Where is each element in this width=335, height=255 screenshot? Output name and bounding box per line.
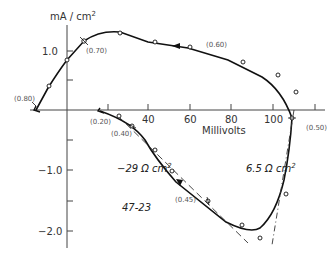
x-ticks xyxy=(108,104,315,110)
annotation-0-20: (0.20) xyxy=(90,118,111,126)
x-tick-label-100: 100 xyxy=(264,114,283,125)
y-tick-label-m1: −1.0 xyxy=(38,165,62,176)
data-points xyxy=(47,31,298,240)
annotation-0-50: (0.50) xyxy=(306,124,327,132)
y-tick-label-1: 1.0 xyxy=(42,46,58,57)
annotation-0-70: (0.70) xyxy=(86,47,107,55)
neg-resistance-label: −29 Ω cm2 xyxy=(117,162,172,174)
x-tick-label-80: 80 xyxy=(225,114,238,125)
pos-resistance-label: 6.5 Ω cm2 xyxy=(246,162,296,174)
x-tick-label-60: 60 xyxy=(184,114,197,125)
iv-loop-chart: mA / cm2 1.0 −1.0 −2.0 40 60 80 100 Mill… xyxy=(0,0,335,255)
y-axis-label: mA / cm2 xyxy=(50,10,96,22)
x-tick-label-40: 40 xyxy=(142,114,155,125)
chart-container: mA / cm2 1.0 −1.0 −2.0 40 60 80 100 Mill… xyxy=(0,0,335,255)
y-tick-label-m2: −2.0 xyxy=(38,226,62,237)
iv-curve-upper xyxy=(36,32,292,118)
y-ticks xyxy=(67,51,73,231)
arrow-icon xyxy=(172,43,180,49)
x-axis-label: Millivolts xyxy=(202,125,246,136)
annotation-0-60: (0.60) xyxy=(206,41,227,49)
annotation-0-80: (0.80) xyxy=(14,95,35,103)
point-crosses xyxy=(32,37,296,205)
annotation-0-40: (0.40) xyxy=(111,130,132,138)
figure-id-label: 47-23 xyxy=(122,202,151,213)
annotation-0-45: (0.45) xyxy=(175,196,196,204)
